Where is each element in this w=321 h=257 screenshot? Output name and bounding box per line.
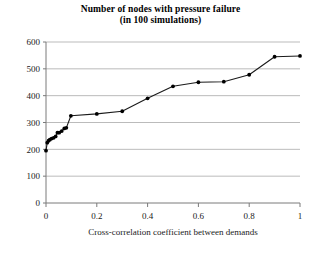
data-point — [273, 55, 277, 59]
x-tick-label-1: 1 — [298, 211, 303, 221]
data-point — [44, 149, 48, 153]
x-tick-labels: 00.20.40.60.81 — [44, 211, 303, 221]
x-axis-title: Cross-correlation coefficient between de… — [88, 227, 258, 237]
data-point — [120, 109, 124, 113]
y-tick-labels: 0100200300400500600 — [27, 37, 47, 208]
x-tick-label-0_6: 0.6 — [193, 211, 205, 221]
plot-area: 0100200300400500600 00.20.40.60.81 Cross… — [0, 0, 321, 257]
x-tick-label-0_2: 0.2 — [91, 211, 102, 221]
data-point — [69, 114, 73, 118]
chart-figure: Number of nodes with pressure failure (i… — [0, 0, 321, 257]
y-tick-label-400: 400 — [27, 91, 41, 101]
x-tick-label-0_8: 0.8 — [244, 211, 256, 221]
data-point — [247, 73, 251, 77]
data-point — [95, 112, 99, 116]
x-tick-label-0_4: 0.4 — [142, 211, 154, 221]
data-point — [64, 126, 68, 130]
y-tick-label-200: 200 — [27, 145, 41, 155]
data-point — [54, 135, 58, 139]
data-line-series-0 — [46, 56, 300, 151]
y-tick-label-100: 100 — [27, 171, 41, 181]
data-point — [197, 80, 201, 84]
x-tick-marks — [46, 203, 300, 207]
y-tick-label-300: 300 — [27, 118, 41, 128]
y-tick-label-600: 600 — [27, 37, 41, 47]
x-tick-label-0: 0 — [44, 211, 49, 221]
data-point — [222, 80, 226, 84]
y-tick-label-0: 0 — [36, 198, 41, 208]
data-point — [146, 96, 150, 100]
gridlines — [46, 42, 300, 176]
y-tick-label-500: 500 — [27, 64, 41, 74]
data-point — [171, 84, 175, 88]
data-point — [298, 54, 302, 58]
